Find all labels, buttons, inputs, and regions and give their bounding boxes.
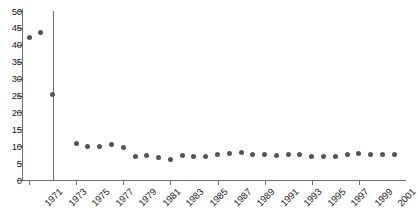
x-axis-tick <box>29 180 30 185</box>
y-axis-tick-label: 45 <box>6 23 22 32</box>
data-point <box>191 154 196 159</box>
data-point <box>50 92 55 97</box>
data-point <box>392 152 397 157</box>
data-point <box>345 152 350 157</box>
y-axis-tick-label-wrap: 25 <box>0 91 22 100</box>
data-point <box>380 152 385 157</box>
x-axis-tick-label: 1989 <box>254 186 276 208</box>
x-axis-tick-label: 1983 <box>183 186 205 208</box>
y-axis-tick-label: 0 <box>6 176 22 185</box>
x-axis-tick-label: 1971 <box>42 186 64 208</box>
data-point <box>286 152 291 157</box>
y-axis-tick-label-wrap: 20 <box>0 108 22 117</box>
data-point <box>262 152 267 157</box>
y-axis-tick-label-wrap: 40 <box>0 40 22 49</box>
data-point <box>215 152 220 157</box>
data-point <box>333 154 338 159</box>
x-axis-tick-label: 1975 <box>89 186 111 208</box>
x-axis-tick-label: 1997 <box>348 186 370 208</box>
data-point <box>74 141 79 146</box>
data-point <box>356 151 361 156</box>
x-axis-line <box>22 180 406 181</box>
data-point <box>274 153 279 158</box>
y-axis-tick-label: 5 <box>6 159 22 168</box>
y-axis-tick-label-wrap: 35 <box>0 57 22 66</box>
x-axis-tick <box>170 180 171 185</box>
y-axis-tick-label: 20 <box>6 108 22 117</box>
data-point <box>168 157 173 162</box>
y-axis-tick-label-wrap: 50 <box>0 7 22 16</box>
x-axis-tick-label: 1999 <box>372 186 394 208</box>
x-axis-tick-label: 1987 <box>231 186 253 208</box>
y-axis-tick-label: 40 <box>6 40 22 49</box>
data-point <box>97 144 102 149</box>
data-point <box>309 154 314 159</box>
data-point <box>156 155 161 160</box>
y-axis-tick-label-wrap: 45 <box>0 23 22 32</box>
data-point <box>239 150 244 155</box>
y-axis-tick-label: 50 <box>6 7 22 16</box>
y-axis-tick-label: 30 <box>6 74 22 83</box>
y-axis-tick-label-wrap: 10 <box>0 142 22 151</box>
y-axis-tick-label: 25 <box>6 91 22 100</box>
x-axis-tick <box>359 180 360 185</box>
y-axis-tick-label-wrap: 0 <box>0 176 22 185</box>
x-axis-tick-label: 1973 <box>66 186 88 208</box>
data-point <box>180 153 185 158</box>
x-axis-tick <box>123 180 124 185</box>
data-point <box>109 142 114 147</box>
x-axis-tick-label: 1995 <box>325 186 347 208</box>
data-point <box>38 30 43 35</box>
data-point <box>27 35 32 40</box>
x-axis-tick <box>312 180 313 185</box>
y-axis-tick-label: 15 <box>6 125 22 134</box>
x-axis-tick <box>218 180 219 185</box>
data-point <box>250 152 255 157</box>
y-axis-tick-label-wrap: 15 <box>0 125 22 134</box>
y-axis-tick-label-wrap: 5 <box>0 159 22 168</box>
y-axis-tick-label: 10 <box>6 142 22 151</box>
x-axis-tick <box>265 180 266 185</box>
x-axis-tick-label: 1977 <box>113 186 135 208</box>
y-axis-tick-label: 35 <box>6 57 22 66</box>
data-point <box>85 144 90 149</box>
data-point <box>203 154 208 159</box>
data-point <box>227 151 232 156</box>
x-axis-tick-label: 1993 <box>301 186 323 208</box>
x-axis-tick-label: 2001 <box>396 186 418 208</box>
y-axis-tick-label-wrap: 30 <box>0 74 22 83</box>
x-axis-tick-label: 1985 <box>207 186 229 208</box>
x-axis-tick-label: 1991 <box>278 186 300 208</box>
data-point <box>321 154 326 159</box>
x-axis-tick <box>76 180 77 185</box>
x-axis-tick-label: 1979 <box>136 186 158 208</box>
data-point <box>144 153 149 158</box>
data-point <box>297 152 302 157</box>
data-point <box>133 154 138 159</box>
data-point <box>368 152 373 157</box>
data-point <box>121 145 126 150</box>
y-axis-line <box>22 9 23 181</box>
x-axis-tick-label: 1981 <box>160 186 182 208</box>
